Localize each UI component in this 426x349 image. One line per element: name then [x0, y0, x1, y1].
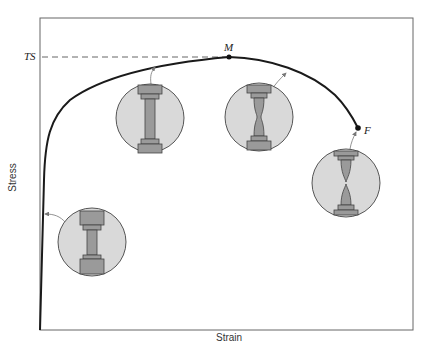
specimen-1-uniform — [58, 208, 126, 276]
specimen-2-elongated — [116, 84, 184, 153]
max-point-label: M — [224, 41, 233, 53]
arrow-specimen-4 — [350, 132, 356, 149]
stress-strain-curve — [40, 57, 358, 330]
stress-strain-diagram — [0, 0, 426, 349]
fracture-point-marker — [355, 125, 361, 131]
arrow-specimen-1 — [45, 214, 66, 223]
specimen-3-necked — [225, 83, 293, 151]
specimen-4-fractured — [312, 149, 380, 217]
y-axis-label: Stress — [7, 163, 18, 191]
ts-label: TS — [24, 50, 36, 62]
arrow-specimen-2 — [151, 67, 155, 84]
max-point-marker — [227, 55, 232, 60]
x-axis-label: Strain — [216, 332, 242, 343]
fracture-point-label: F — [364, 124, 371, 136]
